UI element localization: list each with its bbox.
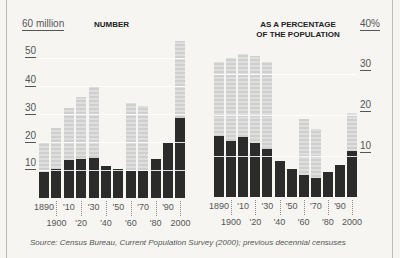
bar-1910 <box>64 108 74 198</box>
bar-segment-foreign-born <box>89 158 99 198</box>
bar-1940 <box>275 161 285 197</box>
bar-1930 <box>262 62 272 197</box>
y-axis-top-label-right: 40% <box>360 19 380 31</box>
bar-segment-foreign-born <box>76 159 86 198</box>
x-tick-label: '50 <box>106 202 130 212</box>
frame-border-left <box>6 0 7 258</box>
y-tick-10: 10 <box>25 158 36 170</box>
x-tick-label: '30 <box>82 202 106 212</box>
bar-1950 <box>287 169 297 197</box>
bar-segment-foreign-born <box>311 178 321 197</box>
x-tick-label: 1900 <box>44 218 68 228</box>
x-tick-label: '80 <box>144 218 168 228</box>
y-tick-20: 20 <box>25 131 36 143</box>
x-tick-label: '70 <box>131 202 155 212</box>
y-axis-top-label-left: 60 million <box>22 19 64 31</box>
bar-segment-foreign-born <box>238 137 248 197</box>
bar-segment-foreign-born <box>275 161 285 197</box>
source-note: Source: Census Bureau, Current Populatio… <box>30 238 346 247</box>
bar-segment-foreign-born <box>39 172 49 198</box>
bar-1950 <box>113 169 123 198</box>
bar-segment-foreign-born <box>126 171 136 198</box>
x-tick-label: '60 <box>119 218 143 228</box>
x-tick-label: '50 <box>280 201 304 211</box>
x-tick-label: '70 <box>304 201 328 211</box>
frame-border-right <box>392 0 393 258</box>
bar-1910 <box>238 54 248 198</box>
bar-segment-foreign-born <box>64 160 74 198</box>
x-tick-label: 2000 <box>168 218 192 228</box>
x-tick-label: '20 <box>69 218 93 228</box>
gridline <box>39 114 185 115</box>
bar-segment-foreign-born <box>51 169 61 198</box>
gridline <box>214 74 357 75</box>
bar-segment-foreign-born <box>299 175 309 197</box>
bar-segment-foreign-born <box>175 118 185 198</box>
x-tick-label: '60 <box>292 217 316 227</box>
bar-segment-foreign-born <box>347 151 357 197</box>
x-tick-label: '30 <box>255 201 279 211</box>
gridline <box>214 115 357 116</box>
x-tick-label: '10 <box>231 201 255 211</box>
x-tick-label: 1890 <box>207 201 231 211</box>
x-tick-label: '90 <box>328 201 352 211</box>
bar-1970 <box>138 106 148 198</box>
gridline <box>214 156 357 157</box>
chart-title-number: NUMBER <box>94 20 129 30</box>
bar-segment-foreign-born <box>287 169 297 197</box>
y-tick-50: 50 <box>25 46 36 58</box>
y-tick-40: 40 <box>25 75 36 87</box>
x-tick-label: '40 <box>94 218 118 228</box>
x-tick-label: '20 <box>243 217 267 227</box>
bar-segment-foreign-born <box>151 159 161 198</box>
x-tick-label: 2000 <box>340 217 364 227</box>
gridline <box>39 86 185 87</box>
x-tick-label: '40 <box>268 217 292 227</box>
title-line-2: OF THE POPULATION <box>238 30 358 40</box>
bar-1980 <box>323 172 333 197</box>
bar-segment-foreign-born <box>250 143 260 197</box>
y-tick-30: 30 <box>25 103 36 115</box>
bar-1960 <box>126 103 136 198</box>
bar-1890 <box>214 62 224 197</box>
bar-2000 <box>347 113 357 197</box>
bar-1900 <box>226 58 236 197</box>
title-line-1: AS A PERCENTAGE <box>238 20 358 30</box>
gridline <box>39 170 185 171</box>
bar-segment-foreign-born <box>113 169 123 198</box>
bar-segment-foreign-born <box>214 136 224 197</box>
y-tick-10-pct: 10 <box>360 141 371 153</box>
x-tick-leader <box>180 201 181 216</box>
bar-1990 <box>335 165 345 197</box>
x-tick-label: '80 <box>316 217 340 227</box>
gridline <box>39 58 185 59</box>
bar-2000 <box>175 41 185 198</box>
bar-segment-foreign-born <box>323 172 333 197</box>
bar-1920 <box>250 56 260 197</box>
x-tick-label: '90 <box>156 202 180 212</box>
bar-segment-foreign-born <box>226 141 236 197</box>
x-tick-label: '10 <box>57 202 81 212</box>
x-tick-leader <box>352 200 353 215</box>
bar-1920 <box>76 97 86 198</box>
y-tick-30-pct: 30 <box>360 59 371 71</box>
gridline <box>39 142 185 143</box>
x-tick-label: 1890 <box>32 202 56 212</box>
chart-title-percentage: AS A PERCENTAGE OF THE POPULATION <box>238 20 358 40</box>
bar-segment-foreign-born <box>335 165 345 197</box>
bar-1960 <box>299 119 309 197</box>
bar-1900 <box>51 128 61 198</box>
bar-1970 <box>311 129 321 197</box>
y-tick-20-pct: 20 <box>360 100 371 112</box>
bar-segment-foreign-born <box>138 171 148 198</box>
bar-1980 <box>151 159 161 198</box>
x-tick-label: 1900 <box>219 217 243 227</box>
